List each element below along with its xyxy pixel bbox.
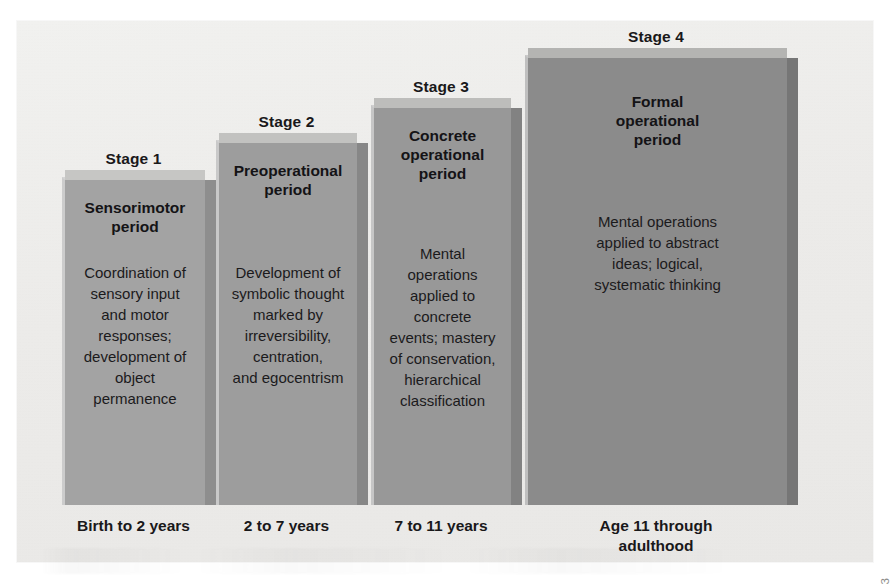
stage-label-1: Stage 1 — [62, 150, 205, 168]
period-title-3-line-2: operational — [401, 146, 485, 163]
period-body-3-line-4: of conservation, — [390, 350, 496, 367]
period-body-2-line-2: symbolic thought — [232, 285, 345, 302]
stage-bar-2-top-bevel — [219, 133, 357, 143]
period-title-3: Concrete operational period — [384, 126, 501, 183]
period-title-2: Preoperational period — [229, 161, 347, 199]
period-body-4: Mental operations applied to abstract id… — [538, 211, 777, 295]
age-label-1: Birth to 2 years — [62, 516, 205, 536]
period-body-1: Coordination of sensory input and motor … — [75, 262, 195, 409]
stage-bar-3-content: Concrete operational period Mental opera… — [374, 108, 511, 505]
stage-label-3: Stage 3 — [371, 78, 511, 96]
period-body-4-line-3: ideas; logical, — [612, 255, 703, 272]
period-title-1-line-2: period — [111, 218, 158, 235]
period-body-1-line-4: responses; — [98, 327, 171, 344]
period-title-3-line-3: period — [419, 165, 466, 182]
age-label-3-line-1: 7 to 11 years — [394, 517, 487, 534]
period-body-3-line-5: hierarchical — [404, 371, 481, 388]
period-body-3-line-2: applied to concrete — [410, 287, 475, 325]
stage-bar-2-side-face — [357, 143, 368, 505]
period-body-3-line-1: Mental operations — [407, 245, 477, 283]
period-body-1-line-1: Coordination of — [84, 264, 186, 281]
period-body-4-line-4: systematic thinking — [594, 276, 721, 293]
period-body-2-line-6: and egocentrism — [233, 369, 344, 386]
stage-column-2: Stage 2 Preoperational period Developmen… — [216, 113, 357, 505]
stage-bar-2: Preoperational period Development of sym… — [216, 140, 357, 505]
stage-label-2: Stage 2 — [216, 113, 357, 131]
period-body-2: Development of symbolic thought marked b… — [229, 262, 347, 388]
stage-bar-1-content: Sensorimotor period Coordination of sens… — [65, 180, 205, 505]
period-body-2-line-4: irreversibility, — [245, 327, 331, 344]
stage-bar-3-top-bevel — [374, 98, 511, 108]
period-title-2-line-2: period — [264, 181, 311, 198]
stage-bar-2-content: Preoperational period Development of sym… — [219, 143, 357, 505]
stage-column-1: Stage 1 Sensorimotor period Coordination… — [62, 150, 205, 505]
age-label-2-line-1: 2 to 7 years — [244, 517, 329, 534]
stage-bar-4-top-bevel — [528, 48, 787, 58]
stage-column-3: Stage 3 Concrete operational period Ment… — [371, 78, 511, 505]
piaget-stage-figure: Stage 1 Sensorimotor period Coordination… — [0, 0, 895, 584]
period-body-1-line-3: and motor — [101, 306, 169, 323]
stage-bar-4-content: Formal operational period Mental operati… — [528, 58, 787, 505]
period-body-2-line-5: centration, — [253, 348, 323, 365]
period-title-4: Formal operational period — [538, 92, 777, 149]
period-body-1-line-2: sensory input — [90, 285, 179, 302]
period-title-4-line-3: period — [634, 131, 681, 148]
age-label-4: Age 11 through adulthood — [525, 516, 787, 556]
period-title-4-line-1: Formal — [632, 93, 684, 110]
stage-bar-1: Sensorimotor period Coordination of sens… — [62, 177, 205, 505]
age-label-1-line-1: Birth to 2 years — [77, 517, 190, 534]
period-body-4-line-2: applied to abstract — [596, 234, 719, 251]
age-label-2: 2 to 7 years — [216, 516, 357, 536]
period-body-1-line-6: object permanence — [93, 369, 176, 407]
stage-bar-1-top-bevel — [65, 170, 205, 180]
period-title-1-line-1: Sensorimotor — [85, 199, 186, 216]
period-title-1: Sensorimotor period — [75, 198, 195, 236]
period-title-2-line-1: Preoperational — [234, 162, 343, 179]
stage-label-4: Stage 4 — [525, 28, 787, 46]
period-body-4-line-1: Mental operations — [598, 213, 717, 230]
period-body-3-line-3: events; mastery — [390, 329, 496, 346]
age-label-4-line-1: Age 11 through — [600, 517, 713, 534]
stage-bar-3-side-face — [511, 108, 522, 505]
stage-bar-4: Formal operational period Mental operati… — [525, 55, 787, 505]
copyright-credit: © Cengage Learning 2013 — [879, 578, 891, 584]
period-body-1-line-5: development of — [84, 348, 187, 365]
period-body-2-line-1: Development of — [235, 264, 340, 281]
age-label-4-line-2: adulthood — [619, 537, 694, 554]
stage-bar-3: Concrete operational period Mental opera… — [371, 105, 511, 505]
period-title-4-line-2: operational — [616, 112, 700, 129]
stage-bar-1-side-face — [205, 180, 216, 505]
period-body-2-line-3: marked by — [253, 306, 323, 323]
period-body-3-line-6: classification — [400, 392, 485, 409]
period-body-3: Mental operations applied to concrete ev… — [384, 243, 501, 411]
age-label-3: 7 to 11 years — [371, 516, 511, 536]
stage-bar-4-side-face — [787, 58, 798, 505]
period-title-3-line-1: Concrete — [409, 127, 476, 144]
stage-column-4: Stage 4 Formal operational period Mental… — [525, 28, 787, 505]
